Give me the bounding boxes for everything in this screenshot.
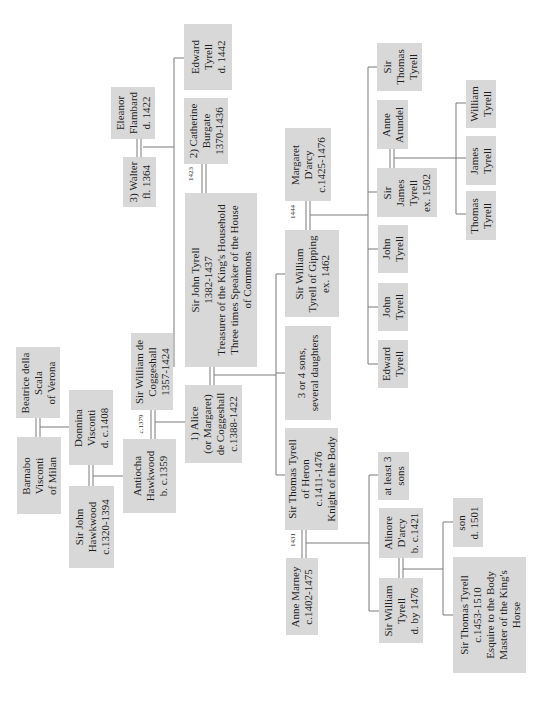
name-text: de Coggeshall xyxy=(214,393,227,456)
name-text: of Heron xyxy=(299,436,312,521)
title-text: Horse xyxy=(509,570,522,660)
name-text: Barnabo xyxy=(20,456,33,494)
name-text: Tyrell xyxy=(393,294,406,320)
person-box-walter: 3) Walterfl. 1364 xyxy=(123,157,156,207)
date-text: d. 1501 xyxy=(468,506,481,539)
date-text: 1382-1437 xyxy=(202,204,215,355)
name-text: Hawkwood xyxy=(85,499,98,554)
marriage-year-1423: 1423 xyxy=(187,167,195,181)
person-box-sir-john-hawkwood: Sir JohnHawkwoodc.1320-1394 xyxy=(69,486,114,568)
date-text: ex. 1462 xyxy=(319,235,332,312)
person-box-sir-james-tyrell: SirJamesTyrellex. 1502 xyxy=(377,168,437,217)
date-text: d. 1442 xyxy=(215,40,228,74)
date-text: 1357-1424 xyxy=(159,339,172,403)
person-box-alice-coggeshall: 1) Alice(or Margaret)de Coggeshallc.1388… xyxy=(185,385,242,463)
name-text: Sir xyxy=(380,49,393,84)
name-text: Tyrell xyxy=(481,198,494,233)
name-text: Anne xyxy=(380,106,393,142)
date-text: c.1402-1475 xyxy=(302,566,315,627)
person-box-sir-john-tyrell: Sir John Tyrell1382-1437Treasurer of the… xyxy=(185,193,257,367)
name-text: Alinore xyxy=(382,513,395,554)
date-text: b. c.1359 xyxy=(156,451,169,502)
person-box-barnabo-visconti: BarnaboViscontiof Milan xyxy=(17,437,61,514)
marriage-year-c1379: c.1379 xyxy=(137,415,145,434)
name-text: 3) Walter xyxy=(127,162,140,203)
person-box-at-least-3-sons: at least 3sons xyxy=(378,452,409,500)
person-box-anne-arundel: AnneArundel xyxy=(377,100,408,149)
name-text: Sir William xyxy=(293,235,306,312)
name-text: 3 or 4 sons, xyxy=(295,335,308,412)
name-text: D'arcy xyxy=(395,513,408,554)
name-text: Burgate xyxy=(200,104,213,159)
name-text: of Milan xyxy=(46,456,59,494)
name-text: James xyxy=(394,174,407,212)
date-text: 1370-1436 xyxy=(213,104,226,159)
name-text: Tyrell xyxy=(393,236,406,262)
name-text: Tyrell xyxy=(481,86,494,122)
name-text: Sir Thomas Tyrell xyxy=(457,570,470,660)
title-text: Esquire to the Body xyxy=(483,570,496,660)
name-text: Tyrell xyxy=(481,147,494,174)
name-text: Anne Marney xyxy=(289,566,302,627)
name-text: Hawkwood xyxy=(143,451,156,502)
name-text: D'arcy xyxy=(302,137,315,192)
marriage-year-1431: 1431 xyxy=(289,533,297,547)
name-text: Sir William xyxy=(382,585,395,636)
name-text: John xyxy=(380,294,393,320)
person-box-edward-tyrell: EdwardTyrell xyxy=(378,340,408,388)
title-text: Treasurer of the King's Household xyxy=(215,204,228,355)
person-box-sir-william-tyrell-d1476: Sir WilliamTyrelld. by 1476 xyxy=(379,578,423,643)
person-box-margaret-darcy: MargaretD'arcyc.1425-1476 xyxy=(285,128,331,201)
name-text: Antiocha xyxy=(130,451,143,502)
name-text: sons xyxy=(394,456,407,495)
name-text: Edward xyxy=(380,347,393,381)
person-box-edward-tyrell-d1442: EdwardTyrelld. 1442 xyxy=(184,24,232,90)
date-text: c.1425-1476 xyxy=(315,137,328,192)
person-box-sir-william-de-coggeshall: Sir William deCoggeshall1357-1424 xyxy=(131,333,173,410)
name-text: of Verona xyxy=(45,352,58,413)
marriage-year-1444: 1444 xyxy=(289,205,297,219)
date-text: c.1320-1394 xyxy=(98,499,111,554)
name-text: Edward xyxy=(189,40,202,74)
date-text: c.1453-1510 xyxy=(470,570,483,660)
name-text: Sir John Tyrell xyxy=(189,204,202,355)
title-text: of Commons xyxy=(241,204,254,355)
name-text: Coggeshall xyxy=(146,339,159,403)
person-box-catherine-burgate: 2) CatherineBurgate1370-1436 xyxy=(184,98,228,164)
name-text: John xyxy=(380,236,393,262)
title-text: Three times Speaker of the House xyxy=(228,204,241,355)
title-text: Knight of the Body xyxy=(325,436,338,521)
person-box-3-or-4-sons: 3 or 4 sons,several daughters xyxy=(285,326,331,420)
name-text: Arundel xyxy=(393,106,406,142)
name-text: Thomas xyxy=(468,198,481,233)
name-text: Scala xyxy=(32,352,45,413)
name-text: Flambard xyxy=(127,92,140,134)
name-text: Thomas xyxy=(393,49,406,84)
name-text: Sir John xyxy=(72,499,85,554)
date-text: d. c.1408 xyxy=(98,407,111,448)
date-text: c.1388-1422 xyxy=(227,393,240,456)
name-text: Tyrell xyxy=(407,174,420,212)
name-text: James xyxy=(468,147,481,174)
person-box-donnina-visconti: DonninaViscontid. c.1408 xyxy=(69,390,113,465)
person-box-thomas-tyrell: ThomasTyrell xyxy=(466,191,496,240)
name-text: Beatrice della xyxy=(19,352,32,413)
name-text: Visconti xyxy=(33,456,46,494)
person-box-john-tyrell-1: JohnTyrell xyxy=(378,225,408,273)
name-text: Visconti xyxy=(85,407,98,448)
person-box-sir-william-tyrell-of-gipping: Sir WilliamTyrell of Gippingex. 1462 xyxy=(285,230,339,317)
person-box-john-tyrell-2: JohnTyrell xyxy=(378,283,408,331)
name-text: Donnina xyxy=(72,407,85,448)
person-box-sir-thomas-tyrell-of-heron: Sir Thomas Tyrellof Heronc.1411-1476Knig… xyxy=(285,428,338,530)
name-text: Sir Thomas Tyrell xyxy=(286,436,299,521)
family-tree-diagram: EdwardTyrelld. 1442 EleanorFlambardd. 14… xyxy=(0,0,544,712)
title-text: Master of the King's xyxy=(496,570,509,660)
person-box-anne-marney: Anne Marneyc.1402-1475 xyxy=(286,558,318,635)
person-box-antiocha-hawkwood: AntiochaHawkwoodb. c.1359 xyxy=(123,439,176,513)
person-box-eleanor-flambard: EleanorFlambardd. 1422 xyxy=(111,87,155,139)
date-text: fl. 1364 xyxy=(140,162,153,203)
person-box-alinore-darcy: AlinoreD'arcyb. c.1421 xyxy=(379,508,423,558)
name-text: several daughters xyxy=(308,335,321,412)
name-text: Eleanor xyxy=(114,92,127,134)
name-text: Tyrell xyxy=(406,49,419,84)
